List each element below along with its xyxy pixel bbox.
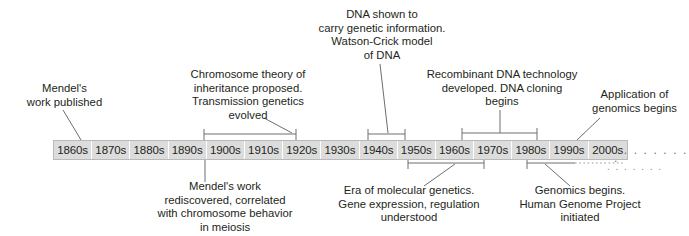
leader-application-genomics xyxy=(577,118,600,140)
caption-mendel-rediscovered: Mendel's work rediscovered, correlated w… xyxy=(130,180,320,234)
decade-cell-1930s[interactable]: 1930s xyxy=(321,141,359,159)
caption-genomics-begins: Genomics begins. Human Genome Project in… xyxy=(500,184,660,225)
genetics-timeline-figure: Mendel's work published Chromosome theor… xyxy=(0,0,689,236)
leader-dna-genetic-information xyxy=(380,64,388,133)
decade-cell-1910s[interactable]: 1910s xyxy=(245,141,283,159)
caption-chromosome-theory: Chromosome theory of inheritance propose… xyxy=(178,68,318,122)
caption-dna-genetic-information: DNA shown to carry genetic information. … xyxy=(297,8,467,62)
decade-cell-1970s[interactable]: 1970s xyxy=(474,141,512,159)
leader-genomics-begins xyxy=(545,164,570,186)
timeline-continuation-dots-lower: . . . . . . . xyxy=(607,163,663,171)
decade-cell-1870s[interactable]: 1870s xyxy=(92,141,130,159)
caption-era-of-molecular-genetics: Era of molecular genetics. Gene expressi… xyxy=(318,184,500,225)
decade-cell-1890s[interactable]: 1890s xyxy=(169,141,207,159)
decade-cell-1880s[interactable]: 1880s xyxy=(130,141,168,159)
decade-cell-1940s[interactable]: 1940s xyxy=(360,141,398,159)
caption-recombinant-dna: Recombinant DNA technology developed. DN… xyxy=(411,68,593,109)
decade-cell-1860s[interactable]: 1860s xyxy=(54,141,92,159)
timeline-continuation-dots: . . . . . . . . . xyxy=(614,146,689,162)
caption-mendel-work-published: Mendel's work published xyxy=(12,82,117,109)
caption-application-of-genomics: Application of genomics begins xyxy=(583,88,686,115)
decade-cell-1900s[interactable]: 1900s xyxy=(207,141,245,159)
decade-cell-1960s[interactable]: 1960s xyxy=(436,141,474,159)
leader-mendel-work-published xyxy=(63,110,81,140)
decade-cell-1920s[interactable]: 1920s xyxy=(283,141,321,159)
decade-cell-1980s[interactable]: 1980s xyxy=(512,141,550,159)
leader-era-molecular-genetics xyxy=(424,164,455,186)
decade-cell-1990s[interactable]: 1990s xyxy=(550,141,588,159)
decade-cell-1950s[interactable]: 1950s xyxy=(398,141,436,159)
timeline-bar: 1860s 1870s 1880s 1890s 1900s 1910s 1920… xyxy=(53,140,628,160)
